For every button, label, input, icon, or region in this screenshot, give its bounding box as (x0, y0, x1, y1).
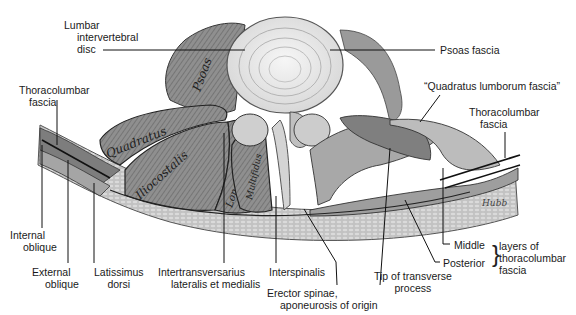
label-line: Lumbar (64, 19, 138, 31)
label-line: External (32, 266, 79, 278)
label-external-oblique: External oblique (32, 266, 79, 290)
label-line: Intertransversarius (158, 266, 260, 278)
label-line: Internal (10, 229, 57, 241)
label-tip-of-transverse-process: Tip of transverse process (374, 270, 452, 294)
label-layers-of-thoracolumbar-fascia: layers of thoracolumbar fascia (499, 240, 566, 276)
intervertebral-disc (227, 17, 343, 113)
label-line: Psoas fascia (440, 44, 500, 56)
label-posterior-layer: Posterior (443, 257, 485, 269)
label-line: Thoracolumbar (19, 84, 90, 96)
label-line: fascia (499, 264, 566, 276)
multifidus-muscle: Multifidus (231, 114, 272, 212)
label-line: Tip of transverse (374, 270, 452, 282)
label-line: “Quadratus lumborum fascia” (424, 80, 560, 92)
label-line: disc (64, 43, 138, 55)
artist-signature: Hubb (481, 198, 507, 208)
label-line: intervertebral (64, 31, 138, 43)
label-line: Posterior (443, 257, 485, 269)
label-internal-oblique: Internal oblique (10, 229, 57, 253)
label-line: fascia (469, 118, 540, 130)
label-thoracolumbar-fascia-left: Thoracolumbar fascia (19, 84, 90, 108)
label-psoas-fascia: Psoas fascia (440, 44, 500, 56)
label-line: Latissimus (94, 266, 144, 278)
label-line: Middle (454, 239, 485, 251)
psoas-fascia-band (340, 30, 402, 122)
label-line: oblique (32, 278, 79, 290)
label-line: lateralis et medialis (158, 278, 260, 290)
label-middle-layer: Middle (454, 239, 485, 251)
label-intertransversarius: Intertransversarius lateralis et mediali… (158, 266, 260, 290)
label-interspinalis: Interspinalis (269, 266, 325, 278)
label-quadratus-lumborum-fascia: “Quadratus lumborum fascia” (424, 80, 560, 92)
label-line: aponeurosis of origin (267, 299, 377, 311)
label-line: thoracolumbar (499, 252, 566, 264)
label-line: Thoracolumbar (469, 106, 540, 118)
label-line: fascia (19, 96, 90, 108)
label-line: oblique (10, 241, 57, 253)
label-erector-spinae: Erector spinae, aponeurosis of origin (267, 287, 377, 311)
label-thoracolumbar-fascia-right: Thoracolumbar fascia (469, 106, 540, 130)
label-line: dorsi (94, 278, 144, 290)
label-latissimus-dorsi: Latissimus dorsi (94, 266, 144, 290)
label-line: process (374, 282, 452, 294)
label-line: Interspinalis (269, 266, 325, 278)
label-line: Erector spinae, (267, 287, 377, 299)
label-line: layers of (499, 240, 566, 252)
label-lumbar-intervertebral-disc: Lumbar intervertebral disc (64, 19, 138, 55)
